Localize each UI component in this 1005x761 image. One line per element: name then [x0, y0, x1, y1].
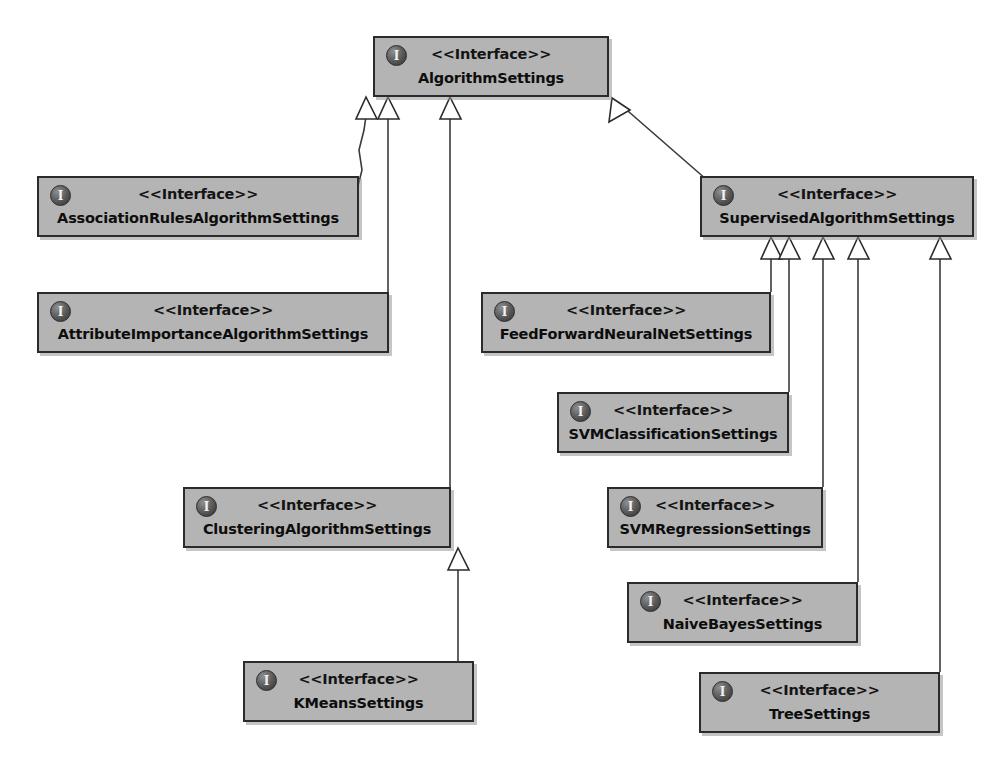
interface-icon-glyph: I: [58, 190, 64, 202]
class-box-attribute-importance-algorithm-settings[interactable]: I <<Interface>> AttributeImportanceAlgor…: [37, 292, 389, 353]
interface-icon: I: [50, 185, 71, 206]
stereotype-label: <<Interface>>: [431, 47, 551, 62]
interface-icon: I: [386, 45, 407, 66]
interface-icon: I: [50, 301, 71, 322]
interface-icon: I: [640, 591, 661, 612]
interface-icon-glyph: I: [502, 306, 508, 318]
class-box-clustering-algorithm-settings[interactable]: I <<Interface>> ClusteringAlgorithmSetti…: [183, 487, 451, 548]
class-box-feed-forward-neural-net-settings[interactable]: I <<Interface>> FeedForwardNeuralNetSett…: [481, 292, 771, 353]
class-box-algorithm-settings[interactable]: I <<Interface>> AlgorithmSettings: [373, 36, 609, 97]
class-box-svm-classification-settings[interactable]: I <<Interface>> SVMClassificationSetting…: [557, 392, 789, 453]
class-name-label: AssociationRulesAlgorithmSettings: [57, 211, 339, 226]
stereotype-label: <<Interface>>: [759, 683, 879, 698]
class-name-label: NaiveBayesSettings: [663, 617, 822, 632]
interface-icon-glyph: I: [394, 50, 400, 62]
arrowhead-kmeans: [448, 548, 469, 570]
stereotype-label: <<Interface>>: [613, 403, 733, 418]
class-box-tree-settings[interactable]: I <<Interface>> TreeSettings: [699, 672, 940, 733]
arrowhead-tree: [930, 237, 951, 259]
class-box-association-rules-algorithm-settings[interactable]: I <<Interface>> AssociationRulesAlgorith…: [37, 176, 359, 237]
interface-icon: I: [712, 681, 733, 702]
stereotype-label: <<Interface>>: [138, 187, 258, 202]
interface-icon: I: [713, 185, 734, 206]
class-name-label: TreeSettings: [769, 707, 870, 722]
edge-layer: [0, 0, 1005, 761]
arrowhead-naive-bayes: [848, 237, 869, 259]
interface-icon: I: [620, 496, 641, 517]
interface-icon-glyph: I: [628, 501, 634, 513]
interface-icon-glyph: I: [721, 190, 727, 202]
interface-icon: I: [570, 401, 591, 422]
class-name-label: SVMClassificationSettings: [568, 427, 777, 442]
interface-icon-glyph: I: [204, 501, 210, 513]
interface-icon-glyph: I: [578, 406, 584, 418]
class-name-label: SVMRegressionSettings: [619, 522, 810, 537]
interface-icon-glyph: I: [720, 686, 726, 698]
class-name-label: KMeansSettings: [294, 696, 424, 711]
arrowhead-clustering: [440, 97, 461, 119]
stereotype-label: <<Interface>>: [257, 498, 377, 513]
class-box-naive-bayes-settings[interactable]: I <<Interface>> NaiveBayesSettings: [627, 582, 858, 643]
class-name-label: AlgorithmSettings: [418, 71, 564, 86]
arrowhead-svm-regression: [813, 237, 834, 259]
stereotype-label: <<Interface>>: [682, 593, 802, 608]
class-box-svm-regression-settings[interactable]: I <<Interface>> SVMRegressionSettings: [607, 487, 823, 548]
stereotype-label: <<Interface>>: [566, 303, 686, 318]
interface-icon-glyph: I: [264, 675, 270, 687]
arrowhead-feedforward: [761, 237, 782, 259]
uml-diagram-canvas: I <<Interface>> AlgorithmSettings I <<In…: [0, 0, 1005, 761]
stereotype-label: <<Interface>>: [777, 187, 897, 202]
class-name-label: ClusteringAlgorithmSettings: [203, 522, 431, 537]
class-name-label: AttributeImportanceAlgorithmSettings: [58, 327, 368, 342]
arrowhead-svm-classification: [779, 237, 800, 259]
interface-icon-glyph: I: [648, 596, 654, 608]
arrowhead-supervised: [609, 98, 630, 122]
stereotype-label: <<Interface>>: [298, 672, 418, 687]
arrowhead-association-rules: [356, 97, 377, 119]
class-box-k-means-settings[interactable]: I <<Interface>> KMeansSettings: [243, 661, 474, 722]
interface-icon: I: [494, 301, 515, 322]
arrowhead-attribute-importance: [378, 97, 399, 119]
stereotype-label: <<Interface>>: [655, 498, 775, 513]
interface-icon: I: [196, 496, 217, 517]
class-name-label: SupervisedAlgorithmSettings: [719, 211, 954, 226]
class-box-supervised-algorithm-settings[interactable]: I <<Interface>> SupervisedAlgorithmSetti…: [700, 176, 974, 237]
stereotype-label: <<Interface>>: [153, 303, 273, 318]
interface-icon: I: [256, 670, 277, 691]
interface-icon-glyph: I: [58, 306, 64, 318]
class-name-label: FeedForwardNeuralNetSettings: [500, 327, 752, 342]
edge-association-rules-to-algorithm-settings: [358, 116, 366, 186]
edge-supervised-to-algorithm-settings: [621, 105, 707, 180]
